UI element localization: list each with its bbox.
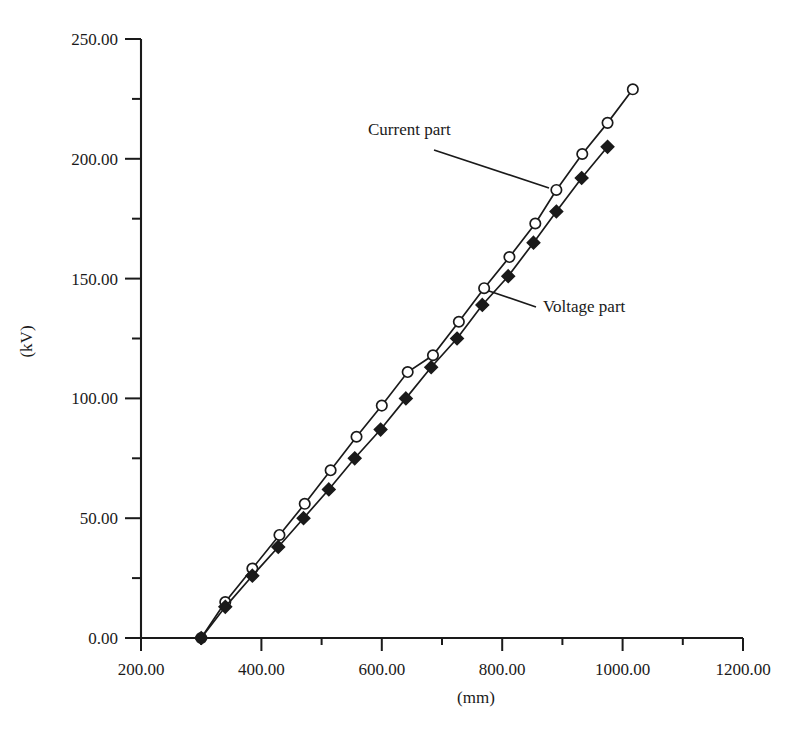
x-axis-title: (mm) xyxy=(457,688,495,707)
marker-open-circle xyxy=(628,84,638,94)
marker-open-circle xyxy=(351,432,361,442)
marker-open-circle xyxy=(428,350,438,360)
y-tick-label: 150.00 xyxy=(71,270,118,289)
marker-open-circle xyxy=(504,252,514,262)
marker-open-circle xyxy=(602,118,612,128)
annotation-label: Voltage part xyxy=(543,297,626,316)
marker-open-circle xyxy=(454,317,464,327)
marker-open-circle xyxy=(479,283,489,293)
y-axis-title: (kV) xyxy=(17,325,36,357)
marker-open-circle xyxy=(530,218,540,228)
x-tick-label: 1000.00 xyxy=(595,660,650,679)
chart-background xyxy=(0,0,800,731)
y-tick-label: 250.00 xyxy=(71,30,118,49)
y-tick-label: 0.00 xyxy=(88,629,118,648)
x-tick-label: 400.00 xyxy=(238,660,285,679)
marker-open-circle xyxy=(325,465,335,475)
marker-open-circle xyxy=(274,530,284,540)
y-tick-label: 50.00 xyxy=(80,509,118,528)
marker-open-circle xyxy=(377,400,387,410)
marker-open-circle xyxy=(577,149,587,159)
x-tick-label: 1200.00 xyxy=(715,660,770,679)
y-tick-label: 200.00 xyxy=(71,150,118,169)
marker-open-circle xyxy=(551,185,561,195)
x-tick-label: 600.00 xyxy=(358,660,405,679)
x-tick-label: 800.00 xyxy=(479,660,526,679)
y-tick-label: 100.00 xyxy=(71,389,118,408)
x-tick-label: 200.00 xyxy=(118,660,165,679)
annotation-label: Current part xyxy=(368,120,451,139)
marker-open-circle xyxy=(300,499,310,509)
marker-open-circle xyxy=(402,367,412,377)
line-chart: 200.00400.00600.00800.001000.001200.000.… xyxy=(0,0,800,731)
chart-figure: 200.00400.00600.00800.001000.001200.000.… xyxy=(0,0,800,731)
